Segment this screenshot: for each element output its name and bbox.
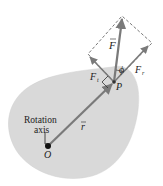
label-radial-force: F bbox=[134, 64, 142, 75]
label-tangential-force: F bbox=[89, 71, 97, 82]
label-point-p: P bbox=[115, 81, 122, 92]
label-force: F bbox=[108, 39, 116, 51]
label-radial-sub: r bbox=[142, 70, 145, 76]
torque-diagram: F ϕ F t F r P r O Rotation axis bbox=[0, 0, 163, 186]
label-position-vector: r bbox=[81, 121, 85, 132]
label-axis-line2: axis bbox=[34, 125, 50, 135]
label-origin: O bbox=[44, 149, 51, 160]
label-axis-line1: Rotation bbox=[24, 115, 57, 125]
label-angle: ϕ bbox=[119, 64, 124, 75]
